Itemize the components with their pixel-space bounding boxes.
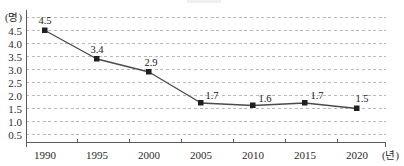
y-tick-label: 2.5 [8, 77, 22, 89]
x-axis-unit-label: (년) [382, 150, 399, 162]
x-tick-label: 2000 [138, 149, 161, 161]
x-tick-label: 2005 [190, 149, 213, 161]
x-tick-label: 1990 [34, 149, 57, 161]
data-value-labels: 4.5 3.4 2.9 1.7 1.6 1.7 1.5 [38, 15, 368, 104]
axis-x [27, 139, 386, 148]
data-value-label: 1.5 [355, 93, 368, 104]
x-tick-label: 2010 [242, 149, 265, 161]
x-tick-label: 2015 [294, 149, 317, 161]
data-point-marker[interactable] [198, 100, 204, 106]
y-tick-label: 4.0 [8, 38, 22, 50]
y-tick-label: 1.5 [8, 103, 22, 115]
data-value-label: 1.7 [205, 90, 218, 101]
top-edge-artifact [187, 0, 221, 3]
y-tick-label: 2.0 [8, 90, 22, 102]
y-tick-label: 3.0 [8, 64, 22, 76]
data-point-marker[interactable] [250, 103, 256, 109]
chart-figure: (명) 4.5 4.0 3.5 3.0 2.5 2.0 1.5 1.0 0.5 [0, 0, 404, 166]
data-point-marker[interactable] [302, 100, 308, 106]
data-value-label: 2.9 [144, 57, 157, 68]
data-value-label: 1.6 [258, 93, 271, 104]
y-axis-unit-label: (명) [5, 12, 22, 24]
x-tick-label: 2020 [346, 149, 369, 161]
y-tick-label: 1.0 [8, 116, 22, 128]
data-point-marker[interactable] [94, 56, 100, 62]
data-value-label: 4.5 [38, 15, 51, 26]
x-tick-label: 1995 [86, 149, 109, 161]
data-point-marker[interactable] [354, 106, 360, 112]
y-tick-label: 3.5 [8, 51, 22, 63]
data-point-marker[interactable] [42, 28, 48, 34]
y-tick-label: 0.5 [8, 129, 22, 141]
x-axis-tick-labels: 1990 1995 2000 2005 2010 2015 2020 [34, 149, 369, 161]
y-axis-tick-labels: 4.5 4.0 3.5 3.0 2.5 2.0 1.5 1.0 0.5 [8, 25, 22, 141]
gridlines-horizontal [26, 18, 386, 135]
data-value-label: 1.7 [310, 90, 323, 101]
data-point-marker[interactable] [146, 69, 152, 75]
line-chart-canvas: (명) 4.5 4.0 3.5 3.0 2.5 2.0 1.5 1.0 0.5 [0, 0, 404, 166]
y-tick-label: 4.5 [8, 25, 22, 37]
data-value-label: 3.4 [90, 44, 104, 55]
